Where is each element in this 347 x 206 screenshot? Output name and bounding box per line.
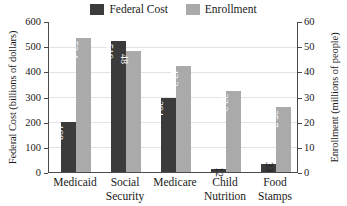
y-tick-mark-right-10 (298, 148, 302, 149)
y-tick-mark-right-0 (298, 173, 302, 174)
bar-value-enrollment-child-nutrition: 32.3 (219, 94, 229, 112)
bar-value-enrollment-food-stamps: 25.7 (269, 110, 279, 128)
y-tick-mark-right-60 (298, 22, 302, 23)
y-tick-label-left-600: 600 (15, 17, 41, 27)
plot-area: 198 53.4 519 48 294 42.3 (48, 22, 298, 173)
bar-value-enrollment-social-security: 48 (119, 54, 129, 64)
legend-entry-federal-cost: Federal Cost (90, 4, 167, 15)
y-tick-label-right-10: 10 (304, 143, 330, 153)
y-tick-mark-right-20 (298, 123, 302, 124)
legend-swatch-icon-enrollment (186, 4, 200, 15)
y-tick-mark-right-40 (298, 72, 302, 73)
bar-federal-cost-food-stamps[interactable]: 33 (261, 164, 276, 172)
x-category-food-stamps-line1: Food (240, 176, 310, 190)
y-tick-label-left-500: 500 (15, 42, 41, 52)
bar-group-medicare: 294 42.3 (161, 22, 191, 172)
x-category-food-stamps: Food Stamps (240, 176, 310, 203)
chart-legend: Federal Cost Enrollment (0, 2, 347, 17)
y-tick-label-right-30: 30 (304, 93, 330, 103)
bar-value-federal-cost-medicare: 294 (154, 101, 164, 116)
legend-entry-enrollment: Enrollment (186, 4, 257, 15)
y-tick-label-right-50: 50 (304, 42, 330, 52)
bar-value-federal-cost-food-stamps: 33 (264, 162, 274, 172)
x-category-food-stamps-line2: Stamps (240, 190, 310, 204)
y-tick-label-right-60: 60 (304, 17, 330, 27)
bar-federal-cost-medicaid[interactable]: 198 (61, 122, 76, 172)
y-tick-label-right-20: 20 (304, 118, 330, 128)
bar-group-food-stamps: 33 25.7 (261, 22, 291, 172)
y-axis-right-title: Enrollment (millions of people) (329, 28, 340, 168)
bar-group-medicaid: 198 53.4 (61, 22, 91, 172)
y-tick-label-left-400: 400 (15, 67, 41, 77)
bar-group-social-security: 519 48 (111, 22, 141, 172)
bar-enrollment-child-nutrition[interactable]: 32.3 (226, 91, 241, 172)
y-tick-label-left-100: 100 (15, 143, 41, 153)
bar-enrollment-social-security[interactable]: 48 (126, 51, 141, 172)
bar-federal-cost-medicare[interactable]: 294 (161, 98, 176, 172)
bar-enrollment-food-stamps[interactable]: 25.7 (276, 107, 291, 172)
y-tick-mark-right-30 (298, 98, 302, 99)
bar-value-federal-cost-social-security: 519 (104, 44, 114, 59)
y-tick-label-left-300: 300 (15, 93, 41, 103)
legend-swatch-icon-federal-cost (90, 4, 104, 15)
y-tick-mark-left-0 (44, 173, 48, 174)
x-axis-category-labels: Medicaid Social Security Medicare Child … (48, 176, 298, 206)
bar-value-enrollment-medicaid: 53.4 (69, 41, 79, 59)
bar-enrollment-medicare[interactable]: 42.3 (176, 66, 191, 173)
y-tick-label-left-0: 0 (15, 168, 41, 178)
y-tick-label-right-40: 40 (304, 67, 330, 77)
bar-enrollment-medicaid[interactable]: 53.4 (76, 38, 91, 172)
x-category-social-security-line2: Security (90, 190, 160, 204)
bar-value-enrollment-medicare: 42.3 (169, 69, 179, 87)
legend-label-federal-cost: Federal Cost (109, 4, 167, 15)
bar-group-child-nutrition: 12 32.3 (211, 22, 241, 172)
y-tick-label-left-200: 200 (15, 118, 41, 128)
chart-figure: Federal Cost Enrollment Federal Cost (bi… (0, 0, 347, 206)
bar-federal-cost-child-nutrition[interactable]: 12 (211, 169, 226, 172)
bar-value-federal-cost-medicaid: 198 (54, 125, 64, 140)
y-tick-mark-right-50 (298, 47, 302, 48)
legend-label-enrollment: Enrollment (205, 4, 257, 15)
